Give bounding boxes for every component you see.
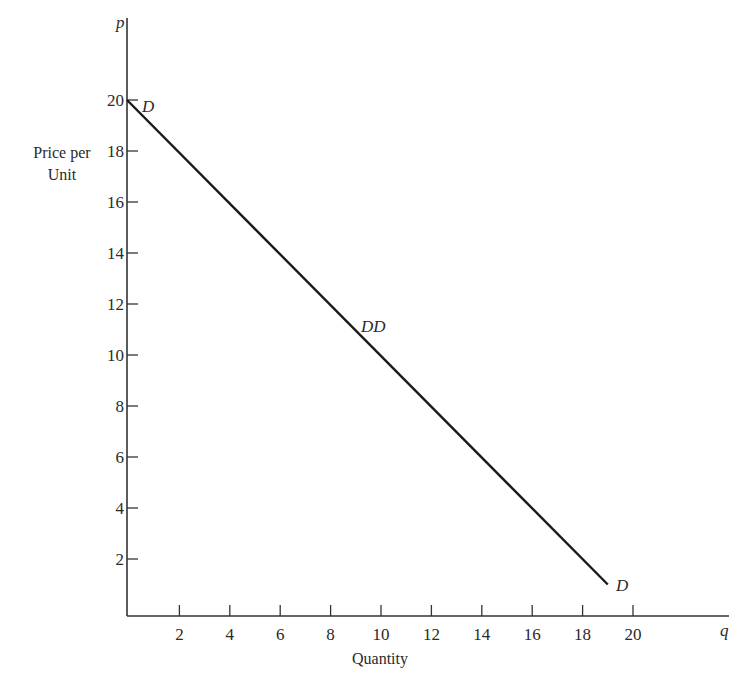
demand-line bbox=[127, 100, 608, 585]
y-axis-symbol: p bbox=[115, 13, 125, 32]
y-tick-label: 18 bbox=[107, 142, 124, 161]
x-tick-label: 2 bbox=[175, 625, 184, 644]
axes bbox=[127, 18, 729, 616]
y-tick-label: 8 bbox=[116, 397, 125, 416]
x-tick-label: 16 bbox=[524, 625, 541, 644]
y-tick-label: 6 bbox=[116, 448, 125, 467]
y-axis-title-line2: Unit bbox=[48, 166, 77, 183]
demand-curve-dd bbox=[127, 100, 608, 585]
x-tick-label: 4 bbox=[226, 625, 235, 644]
x-tick-label: 8 bbox=[326, 625, 335, 644]
demand-curve-chart: 2468101214161820 2468101214161820 Price … bbox=[0, 0, 745, 684]
x-axis-title: Quantity bbox=[352, 650, 408, 668]
curve-start-label: D bbox=[141, 97, 155, 116]
curve-end-label: D bbox=[615, 576, 629, 595]
x-axis-symbol: q bbox=[720, 621, 729, 640]
x-axis-ticks: 2468101214161820 bbox=[175, 605, 641, 644]
y-tick-label: 10 bbox=[107, 346, 124, 365]
y-tick-label: 16 bbox=[107, 193, 124, 212]
x-tick-label: 6 bbox=[276, 625, 285, 644]
x-tick-label: 12 bbox=[423, 625, 440, 644]
y-axis-ticks: 2468101214161820 bbox=[107, 91, 138, 569]
x-tick-label: 10 bbox=[373, 625, 390, 644]
x-tick-label: 20 bbox=[625, 625, 642, 644]
x-tick-label: 14 bbox=[473, 625, 491, 644]
y-tick-label: 20 bbox=[107, 91, 124, 110]
y-tick-label: 2 bbox=[116, 550, 125, 569]
x-tick-label: 18 bbox=[574, 625, 591, 644]
curve-mid-label: DD bbox=[360, 317, 386, 336]
y-tick-label: 12 bbox=[107, 295, 124, 314]
y-tick-label: 4 bbox=[116, 499, 125, 518]
y-tick-label: 14 bbox=[107, 244, 125, 263]
y-axis-title-line1: Price per bbox=[33, 144, 91, 162]
